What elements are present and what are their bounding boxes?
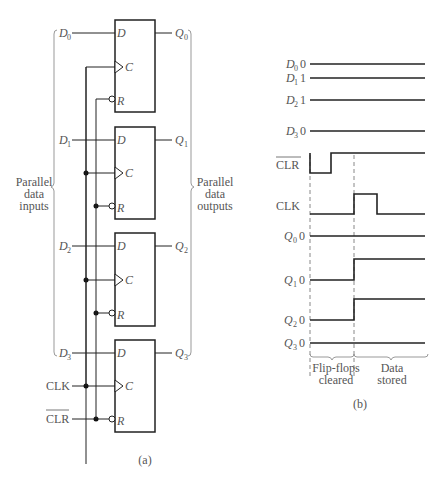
- q0-output-label: Q: [175, 26, 184, 40]
- q3-output-label: Q: [175, 346, 184, 360]
- cleared-brace: [310, 354, 354, 360]
- wave-q1: [310, 259, 425, 280]
- sig-q1-name: Q: [284, 273, 293, 287]
- caption-a: (a): [138, 453, 151, 467]
- sig-q2-sub: 2: [293, 320, 297, 329]
- timing-diagram: D 0 0 D 1 1 D 2 1 D 3 0 CLR CLK Q 0 0 Q …: [276, 57, 428, 411]
- outputs-brace: [188, 30, 194, 356]
- stored-brace: [354, 354, 428, 360]
- inputs-brace: [51, 30, 57, 356]
- sig-q1-value: 0: [299, 273, 305, 287]
- ff0-pin-d: D: [116, 26, 126, 40]
- sig-d2-value: 1: [300, 93, 306, 107]
- flip-flop-2: D 2 D C R Q 2: [58, 233, 188, 326]
- ff0-pin-r: R: [116, 94, 125, 108]
- sig-q2-value: 0: [299, 313, 305, 327]
- sig-q3-value: 0: [299, 336, 305, 350]
- phase-stored-line2: stored: [377, 373, 406, 387]
- sig-q0-sub: 0: [293, 236, 297, 245]
- inputs-label-3: inputs: [19, 199, 49, 213]
- sig-q0-name: Q: [284, 229, 293, 243]
- sig-clr-name: CLR: [276, 158, 299, 172]
- ff1-pin-d: D: [116, 133, 126, 147]
- ff3-pin-r: R: [116, 414, 125, 428]
- sig-d3-value: 0: [300, 124, 306, 138]
- clk-input-label: CLK: [46, 379, 70, 393]
- q2-output-label: Q: [175, 239, 184, 253]
- sig-clk-name: CLK: [276, 199, 300, 213]
- flip-flop-3: D 3 D C R Q 3: [58, 340, 188, 432]
- ff1-pin-r: R: [116, 201, 125, 215]
- wave-clk: [310, 194, 425, 214]
- wave-clr: [310, 153, 425, 173]
- sig-q0-value: 0: [299, 229, 305, 243]
- ff2-pin-c: C: [125, 273, 134, 287]
- phase-cleared-line2: cleared: [319, 373, 354, 387]
- d0-input-sub: 0: [67, 33, 71, 42]
- outputs-label-3: outputs: [197, 199, 233, 213]
- ff3-pin-d: D: [116, 346, 126, 360]
- sig-q1-sub: 1: [293, 280, 297, 289]
- q3-output-sub: 3: [184, 353, 188, 362]
- sig-d3-sub: 3: [294, 131, 298, 140]
- sig-q2-name: Q: [284, 313, 293, 327]
- ff2-pin-r: R: [116, 308, 125, 322]
- q0-output-sub: 0: [184, 33, 188, 42]
- wave-q2: [310, 299, 425, 320]
- flip-flop-0: D 0 D C R Q 0: [58, 20, 188, 112]
- sig-q3-sub: 3: [293, 343, 297, 352]
- q1-output-sub: 1: [184, 140, 188, 149]
- ff2-pin-d: D: [116, 239, 126, 253]
- ff3-pin-c: C: [125, 379, 134, 393]
- d3-input-sub: 3: [67, 353, 71, 362]
- sig-q3-name: Q: [284, 336, 293, 350]
- sig-d2-sub: 2: [294, 100, 298, 109]
- ff1-pin-c: C: [125, 166, 134, 180]
- register-diagram: Parallel data inputs Parallel data outpu…: [0, 0, 442, 483]
- d2-input-sub: 2: [67, 246, 71, 255]
- ff0-pin-c: C: [125, 60, 134, 74]
- q1-output-label: Q: [175, 133, 184, 147]
- caption-b: (b): [353, 397, 367, 411]
- sig-d1-sub: 1: [294, 78, 298, 87]
- d1-input-sub: 1: [67, 140, 71, 149]
- flip-flop-1: D 1 D C R Q 1: [58, 127, 188, 219]
- q2-output-sub: 2: [184, 246, 188, 255]
- sig-d1-value: 1: [300, 71, 306, 85]
- clr-input-label: CLR: [46, 412, 69, 426]
- sig-d0-value: 0: [300, 57, 306, 71]
